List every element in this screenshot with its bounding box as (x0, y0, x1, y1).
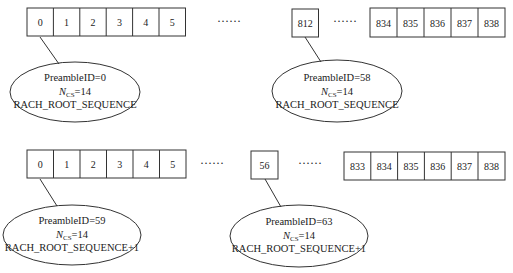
root-sequence-label: RACH_ROOT_SEQUENCE+1 (232, 243, 366, 254)
root-sequence-label: RACH_ROOT_SEQUENCE (275, 99, 398, 110)
preamble-id-label: PreambleID=63 (265, 216, 332, 227)
cell-label: 838 (484, 18, 499, 29)
cell-label: 835 (403, 18, 418, 29)
cell-label: 836 (430, 18, 445, 29)
cell-label: 1 (64, 17, 69, 28)
cell-label: 0 (38, 159, 43, 170)
connector-line (40, 179, 57, 206)
ellipsis: ······ (333, 14, 357, 28)
cell-label: 1 (64, 159, 69, 170)
ellipsis: ······ (200, 156, 224, 170)
preamble-id-label: PreambleID=59 (38, 215, 105, 226)
cell-label: 56 (260, 160, 270, 171)
cell-label: 3 (117, 159, 122, 170)
cell-label: 0 (38, 17, 43, 28)
cell-label: 4 (143, 17, 148, 28)
cell-label: 837 (457, 161, 472, 172)
preamble-diagram: 0 1 2 3 4 5 ······ 812 ······ 834 835 83… (0, 0, 513, 273)
cell-label: 835 (404, 161, 419, 172)
root-sequence-label: RACH_ROOT_SEQUENCE (13, 99, 136, 110)
cell-label: 838 (484, 161, 499, 172)
cell-label: 836 (430, 161, 445, 172)
connector-line (305, 37, 321, 62)
cell-label: 2 (91, 17, 96, 28)
cell-label: 837 (457, 18, 472, 29)
cell-label: 2 (91, 159, 96, 170)
root-sequence-label: RACH_ROOT_SEQUENCE+1 (5, 242, 139, 253)
cell-label: 812 (298, 18, 313, 29)
preamble-id-label: PreambleID=0 (44, 72, 106, 83)
connector-line (40, 37, 59, 64)
cell-label: 834 (376, 18, 391, 29)
connector-line (265, 179, 281, 207)
ncs-label: NCS=14 (55, 229, 89, 242)
preamble-id-label: PreambleID=58 (303, 72, 370, 83)
cell-label: 5 (170, 159, 175, 170)
cell-label: 5 (170, 17, 175, 28)
ncs-label: NCS=14 (320, 86, 354, 99)
ncs-label: NCS=14 (58, 86, 92, 99)
cell-label: 4 (144, 159, 149, 170)
cell-label: 834 (377, 161, 392, 172)
cell-label: 833 (350, 161, 365, 172)
ncs-label: NCS=14 (282, 230, 316, 243)
ellipsis: ······ (217, 14, 241, 28)
cell-label: 3 (117, 17, 122, 28)
ellipsis: ······ (298, 156, 322, 170)
